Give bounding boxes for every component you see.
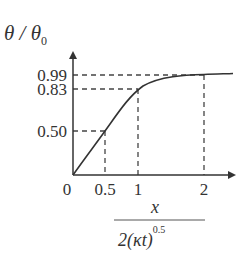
x-tick-label-0: 0 (63, 180, 72, 199)
data-curve (73, 74, 233, 176)
x-tick-label-05: 0.5 (94, 180, 115, 199)
x-tick-label-1: 1 (134, 180, 143, 199)
x-axis-label-denominator: 2(κt)0.5 (118, 224, 165, 251)
chart-canvas: θ / θ0 0.99 0.83 0.50 0 0.5 1 2 x 2(κt)0… (0, 0, 246, 263)
x-tick-label-2: 2 (200, 180, 209, 199)
y-axis-label: θ / θ0 (4, 21, 47, 48)
y-tick-label-083: 0.83 (37, 80, 67, 99)
x-axis-label-numerator: x (150, 197, 159, 217)
y-tick-label-050: 0.50 (37, 122, 67, 141)
